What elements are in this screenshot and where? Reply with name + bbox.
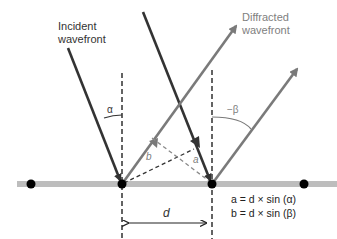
diffracted-ray-2 [212, 69, 297, 184]
b-label: b [146, 150, 152, 163]
equation-a: a = d × sin (α) [231, 193, 296, 206]
diffracted-ray-1 [122, 26, 236, 184]
incident-label-line1: Incident [58, 20, 97, 33]
incident-ray-2 [143, 12, 210, 180]
slit-dot-1 [27, 180, 36, 189]
beta-arc [212, 117, 251, 129]
diffracted-label-line1: Diffracted [242, 11, 289, 24]
grating-bar [17, 181, 337, 187]
a-label: a [193, 153, 199, 166]
alpha-label: α [107, 103, 113, 116]
incident-ray-2-midarrow [190, 136, 200, 148]
slit-dot-4 [300, 180, 309, 189]
d-label: d [163, 207, 170, 220]
slit-dot-3 [208, 180, 217, 189]
neg-beta-label: −β [227, 103, 239, 116]
slit-dot-2 [118, 180, 127, 189]
diffracted-label-line2: wavefront [242, 24, 290, 37]
equation-b: b = d × sin (β) [231, 207, 296, 220]
incident-label-line2: wavefront [58, 33, 106, 46]
